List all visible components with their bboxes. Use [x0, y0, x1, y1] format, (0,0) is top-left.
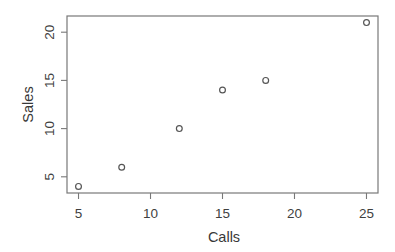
- data-point: [176, 126, 182, 132]
- y-tick-label: 15: [42, 73, 57, 88]
- scatter-plot: 5101520255101520 Calls Sales: [0, 0, 395, 252]
- plot-border: [67, 16, 378, 193]
- data-point: [76, 184, 82, 190]
- scatter-figure: 5101520255101520 Calls Sales: [0, 0, 395, 252]
- x-tick-label: 10: [143, 206, 158, 221]
- x-tick-label: 25: [359, 206, 374, 221]
- data-point: [220, 87, 226, 93]
- data-point: [263, 78, 269, 84]
- y-tick-label: 10: [42, 121, 57, 136]
- tick-labels: 5101520255101520: [42, 25, 374, 221]
- x-tick-label: 5: [75, 206, 83, 221]
- x-tick-label: 20: [287, 206, 302, 221]
- x-axis-label: Calls: [208, 229, 240, 245]
- data-point: [119, 164, 125, 170]
- axis-ticks: [61, 32, 366, 199]
- y-tick-label: 20: [42, 25, 57, 40]
- data-point: [364, 20, 370, 26]
- plot-box: [67, 16, 378, 193]
- y-tick-label: 5: [42, 173, 57, 181]
- data-points: [76, 20, 370, 190]
- x-tick-label: 15: [215, 206, 230, 221]
- y-axis-label: Sales: [20, 86, 36, 122]
